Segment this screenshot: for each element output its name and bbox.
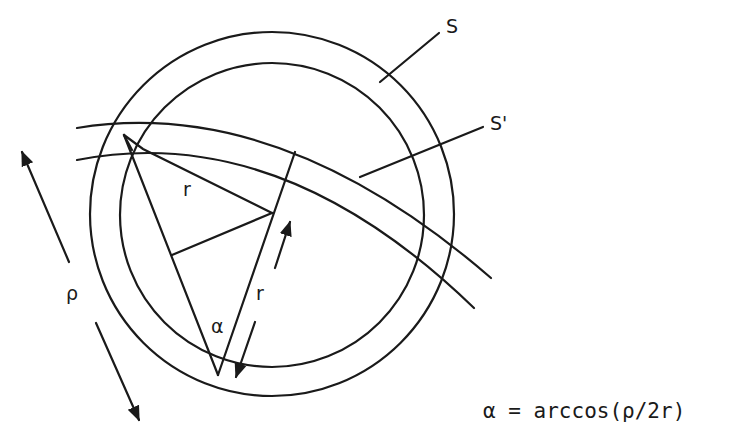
label-r-top: r	[183, 178, 191, 200]
s-leader-line	[380, 33, 439, 82]
label-rho: ρ	[66, 282, 78, 304]
triangle-top-side	[124, 135, 272, 213]
diagram-canvas: S S' r r ρ α α = arccos(ρ/2r)	[0, 0, 733, 437]
label-alpha: α	[211, 315, 224, 337]
r-arrow-down	[236, 322, 255, 377]
label-r-side: r	[256, 282, 264, 304]
formula: α = arccos(ρ/2r)	[483, 399, 685, 423]
s-prime-leader-line	[360, 127, 483, 177]
rho-arrow-down	[96, 323, 139, 420]
triangle-right-side	[218, 152, 295, 375]
inner-circle-s-prime	[120, 63, 424, 367]
perpendicular-line	[172, 213, 272, 255]
label-s: S	[446, 15, 458, 37]
label-s-prime: S'	[490, 112, 507, 134]
rho-arrow-up	[22, 152, 69, 262]
r-arrow-up	[275, 222, 290, 268]
